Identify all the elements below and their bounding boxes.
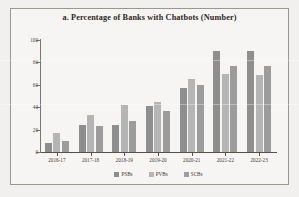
y-tick-label: 20 — [22, 127, 38, 133]
legend-swatch-icon — [114, 172, 119, 177]
bar-group — [242, 40, 276, 152]
y-tick-label: 0 — [22, 149, 38, 155]
x-tick-mark — [158, 152, 159, 156]
legend-item-scbs[interactable]: SCBs — [184, 171, 203, 177]
bar-psbs-2017-18 — [79, 125, 86, 152]
bar-pvbs-2018-19 — [121, 105, 128, 152]
y-tick-label: 100 — [22, 37, 38, 43]
x-tick-mark — [225, 152, 226, 156]
chart-title: a. Percentage of Banks with Chatbots (Nu… — [10, 13, 289, 22]
legend-label: PSBs — [121, 171, 132, 177]
bar-scbs-2017-18 — [96, 126, 103, 152]
y-tick-label: 60 — [22, 82, 38, 88]
bar-group — [209, 40, 243, 152]
bar-scbs-2016-17 — [62, 141, 69, 152]
legend-label: SCBs — [191, 171, 203, 177]
bar-group — [141, 40, 175, 152]
plot-area — [40, 40, 276, 152]
y-tick-label: 40 — [22, 104, 38, 110]
x-tick-mark — [57, 152, 58, 156]
legend-item-psbs[interactable]: PSBs — [114, 171, 132, 177]
legend-swatch-icon — [184, 172, 189, 177]
bar-scbs-2021-22 — [230, 66, 237, 152]
bar-scbs-2022-23 — [264, 66, 271, 152]
legend-label: PVBs — [156, 171, 168, 177]
x-tick-label: 2019-20 — [141, 157, 175, 163]
bar-psbs-2019-20 — [146, 106, 153, 152]
bar-pvbs-2022-23 — [256, 75, 263, 152]
bar-scbs-2019-20 — [163, 111, 170, 152]
bar-psbs-2021-22 — [213, 51, 220, 152]
x-tick-label: 2022-23 — [242, 157, 276, 163]
chart-figure: a. Percentage of Banks with Chatbots (Nu… — [0, 0, 299, 197]
x-tick-label: 2016-17 — [40, 157, 74, 163]
x-tick-mark — [124, 152, 125, 156]
bar-scbs-2020-21 — [197, 85, 204, 152]
x-tick-label: 2021-22 — [209, 157, 243, 163]
bar-psbs-2020-21 — [180, 88, 187, 152]
bar-scbs-2018-19 — [129, 121, 136, 152]
bar-psbs-2018-19 — [112, 125, 119, 152]
bar-pvbs-2021-22 — [222, 74, 229, 152]
y-tick-label: 80 — [22, 59, 38, 65]
x-tick-mark — [192, 152, 193, 156]
x-tick-mark — [91, 152, 92, 156]
x-tick-mark — [259, 152, 260, 156]
bar-group — [107, 40, 141, 152]
bar-group — [40, 40, 74, 152]
bar-group — [74, 40, 108, 152]
bar-pvbs-2016-17 — [53, 133, 60, 152]
bar-pvbs-2019-20 — [154, 102, 161, 152]
bar-group — [175, 40, 209, 152]
chart-legend: PSBsPVBsSCBs — [40, 171, 277, 177]
bar-pvbs-2017-18 — [87, 115, 94, 152]
x-tick-label: 2017-18 — [74, 157, 108, 163]
legend-item-pvbs[interactable]: PVBs — [149, 171, 168, 177]
bar-pvbs-2020-21 — [188, 79, 195, 152]
x-tick-label: 2018-19 — [107, 157, 141, 163]
legend-swatch-icon — [149, 172, 154, 177]
bar-psbs-2016-17 — [45, 143, 52, 152]
x-tick-label: 2020-21 — [175, 157, 209, 163]
bar-psbs-2022-23 — [247, 51, 254, 152]
